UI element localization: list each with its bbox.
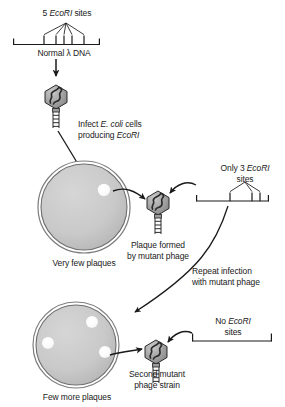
label-infect-ecoli: Infect E. coli cells producing EcoRI [78,119,142,140]
label-few-more-plaques: Few more plaques [22,392,132,403]
plaque-spot [99,346,111,358]
label-normal-lambda-dna: Normal λ DNA [14,48,114,59]
ecori-site-ticks-5 [44,36,84,45]
no-sites-enzyme: EcoRI [228,316,251,326]
only-three-line-1: Only 3 EcoRI [205,163,285,174]
second-mutant-line-2: phage strain [110,380,204,391]
arrow-dna3-to-mutant-phage [170,183,196,193]
label-only-three-ecori-sites: Only 3 EcoRI sites [205,163,285,184]
five-sites-enzyme: EcoRI [50,8,73,18]
phage-first-mutant [147,191,169,234]
only-three-enzyme: EcoRI [247,163,270,173]
infect-pre: Infect [78,119,100,129]
plaque-spot [86,316,98,328]
no-sites-line-1: No EcoRI [198,316,268,327]
label-second-mutant-phage: Second mutant phage strain [110,369,204,390]
repeat-infection-line-2: with mutant phage [192,277,260,288]
producing-enzyme-italic: EcoRI [117,130,140,140]
label-five-ecori-sites: 5 EcoRI sites [22,8,112,19]
normal-dna-post: DNA [71,48,91,58]
dna-map-three-sites [196,182,269,201]
repeat-infection-line-1: Repeat infection [192,266,260,277]
label-plaque-formed: Plaque formed by mutant phage [108,240,208,261]
five-sites-suffix: sites [72,8,91,18]
infect-post: cells [123,119,142,129]
label-no-ecori-sites: No EcoRI sites [198,316,268,337]
dna-map-normal-lambda [13,23,100,45]
normal-dna-pre: Normal [37,48,66,58]
arrow-dna0-to-second-mutant [168,332,192,342]
only-three-pre: Only 3 [221,163,247,173]
producing-pre: producing [78,130,117,140]
diagram-canvas: 5 EcoRI sites Normal λ DNA Infect E. col… [0,0,285,407]
plaque-spot [98,184,110,196]
dish-few-more-plaques [33,302,119,388]
ecori-site-ticks-3 [230,193,260,202]
plaque-formed-line-1: Plaque formed [108,240,208,251]
site-leader-lines-5 [44,23,84,35]
plaque-spot [42,337,54,349]
no-sites-pre: No [215,316,228,326]
plaque-formed-line-2: by mutant phage [108,251,208,262]
only-three-line-2: sites [205,174,285,185]
no-sites-line-2: sites [198,327,268,338]
infect-ecoli-italic: E. coli [100,119,122,129]
infect-line-2: producing EcoRI [78,130,142,141]
second-mutant-line-1: Second mutant [110,369,204,380]
phage-normal-lambda [45,85,67,128]
diagram-vector-layer [0,0,285,407]
label-repeat-infection: Repeat infection with mutant phage [192,266,260,287]
infect-line-1: Infect E. coli cells [78,119,142,130]
